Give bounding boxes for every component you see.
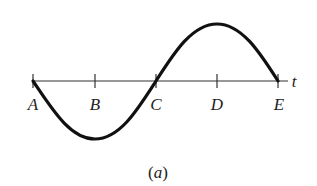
caption-close-paren: ): [162, 163, 168, 182]
point-label-d: D: [210, 95, 224, 114]
sine-wave-diagram: A B C D E t (a): [0, 0, 317, 186]
point-label-c: C: [150, 95, 162, 114]
caption-letter: a: [154, 163, 163, 182]
figure-caption: (a): [148, 163, 168, 182]
point-label-a: A: [27, 95, 39, 114]
point-label-b: B: [90, 95, 101, 114]
point-label-e: E: [273, 95, 285, 114]
axis-label-t: t: [292, 72, 298, 91]
